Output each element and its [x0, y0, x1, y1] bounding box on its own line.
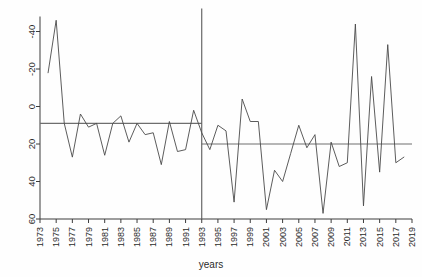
x-tick-label: 2009: [326, 227, 336, 247]
x-tick-label: 1985: [132, 227, 142, 247]
x-tick-label: 1999: [245, 227, 255, 247]
x-axis-title: years: [199, 259, 223, 270]
y-tick-label: -40: [26, 25, 37, 39]
x-tick-label: 2017: [391, 227, 401, 247]
chart-container: 6040200-20-40 19731975197719791981198319…: [0, 0, 422, 277]
x-tick-label: 1991: [181, 227, 191, 247]
y-tick-label: 0: [26, 104, 37, 109]
y-tick-label: 40: [26, 176, 37, 187]
x-tick-label: 1973: [35, 227, 45, 247]
y-tick-label: 60: [26, 214, 37, 225]
x-tick-label: 2019: [407, 227, 417, 247]
x-tick-label: 2015: [375, 227, 385, 247]
x-tick-label: 1983: [116, 227, 126, 247]
x-tick-label: 1987: [148, 227, 158, 247]
y-tick-label: -20: [26, 62, 37, 76]
x-tick-label: 2013: [358, 227, 368, 247]
x-tick-label: 1975: [51, 227, 61, 247]
x-tick-label: 1993: [197, 227, 207, 247]
x-tick-label: 1989: [164, 227, 174, 247]
time-series-chart: 6040200-20-40 19731975197719791981198319…: [0, 0, 422, 277]
y-tick-label: 20: [26, 139, 37, 150]
x-tick-label: 2003: [278, 227, 288, 247]
x-tick-label: 2011: [342, 227, 352, 246]
x-tick-label: 2005: [294, 227, 304, 247]
x-tick-label: 1997: [229, 227, 239, 247]
x-tick-label: 1981: [100, 227, 110, 247]
x-tick-label: 2007: [310, 227, 320, 247]
x-tick-label: 2001: [261, 227, 271, 247]
x-tick-label: 1995: [213, 227, 223, 247]
x-tick-label: 1977: [67, 227, 77, 247]
x-tick-label: 1979: [84, 227, 94, 247]
